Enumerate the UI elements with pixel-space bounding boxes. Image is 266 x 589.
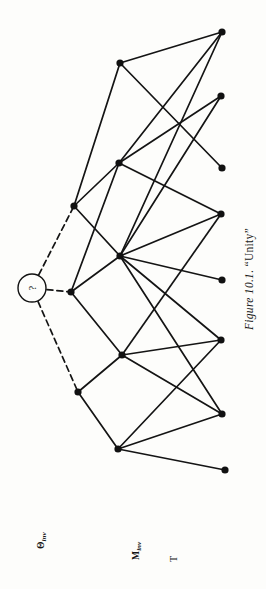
graph-node-a2[interactable] [67, 288, 74, 295]
edge-a1-b3 [74, 206, 120, 256]
edge-a3-b4 [78, 355, 122, 392]
graph-node-b2[interactable] [115, 159, 122, 166]
graph-node-c4[interactable] [217, 210, 224, 217]
node-layer [67, 28, 228, 473]
graph-node-a1[interactable] [70, 202, 77, 209]
graph-node-c1[interactable] [218, 28, 225, 35]
graph-node-c8[interactable] [221, 466, 228, 473]
dashed-edge-root-a3 [38, 302, 78, 392]
graph-node-c3[interactable] [218, 164, 225, 171]
figure-caption: Figure 10.1. “Unity” [243, 228, 255, 330]
tier-label-m-base: M [131, 551, 141, 560]
figure-caption-prefix: Figure 10.1. [243, 270, 255, 330]
edge-b3-c1 [120, 32, 222, 256]
edge-b2-c2 [119, 96, 221, 163]
graph-node-c5[interactable] [218, 276, 225, 283]
edge-a3-b5 [78, 392, 118, 449]
tier-label-m-inv: Minv [131, 542, 141, 560]
edge-b4-c6 [122, 340, 221, 355]
edge-b3-c2 [120, 96, 221, 256]
tier-label-m-subscript: inv [135, 542, 143, 551]
dashed-edge-root-a1 [39, 206, 74, 275]
edge-b1-c1 [120, 32, 222, 63]
figure-page: ? Θinv Minv T Figure 10.1. “Unity” [0, 0, 266, 589]
tier-label-theta-subscript: inv [40, 532, 48, 541]
graph-node-a3[interactable] [74, 388, 81, 395]
graph-node-c2[interactable] [217, 92, 224, 99]
edge-b2-c4 [119, 163, 221, 214]
graph-node-c7[interactable] [218, 410, 225, 417]
graph-node-c6[interactable] [217, 336, 224, 343]
dashed-edge-root-a2 [47, 290, 71, 292]
edge-a2-b2 [71, 163, 119, 292]
graph-node-b3[interactable] [116, 252, 123, 259]
tier-label-theta-inv: Θinv [36, 532, 46, 549]
edge-b5-c8 [118, 449, 225, 470]
edge-b5-c6 [118, 340, 221, 449]
tier-label-theta-base: Θ [36, 541, 46, 549]
figure-caption-title: “Unity” [243, 228, 255, 267]
edge-a2-b4 [71, 292, 122, 355]
dashed-edge-layer [38, 206, 78, 392]
edge-b4-c7 [122, 355, 222, 414]
unity-graph-diagram: ? [0, 0, 266, 589]
tier-label-t: T [168, 556, 179, 562]
root-node-question-mark: ? [27, 285, 38, 290]
solid-edge-layer [71, 32, 225, 470]
graph-node-b1[interactable] [116, 59, 123, 66]
graph-node-b5[interactable] [114, 445, 121, 452]
graph-node-b4[interactable] [118, 351, 125, 358]
root-node-layer: ? [18, 274, 46, 302]
